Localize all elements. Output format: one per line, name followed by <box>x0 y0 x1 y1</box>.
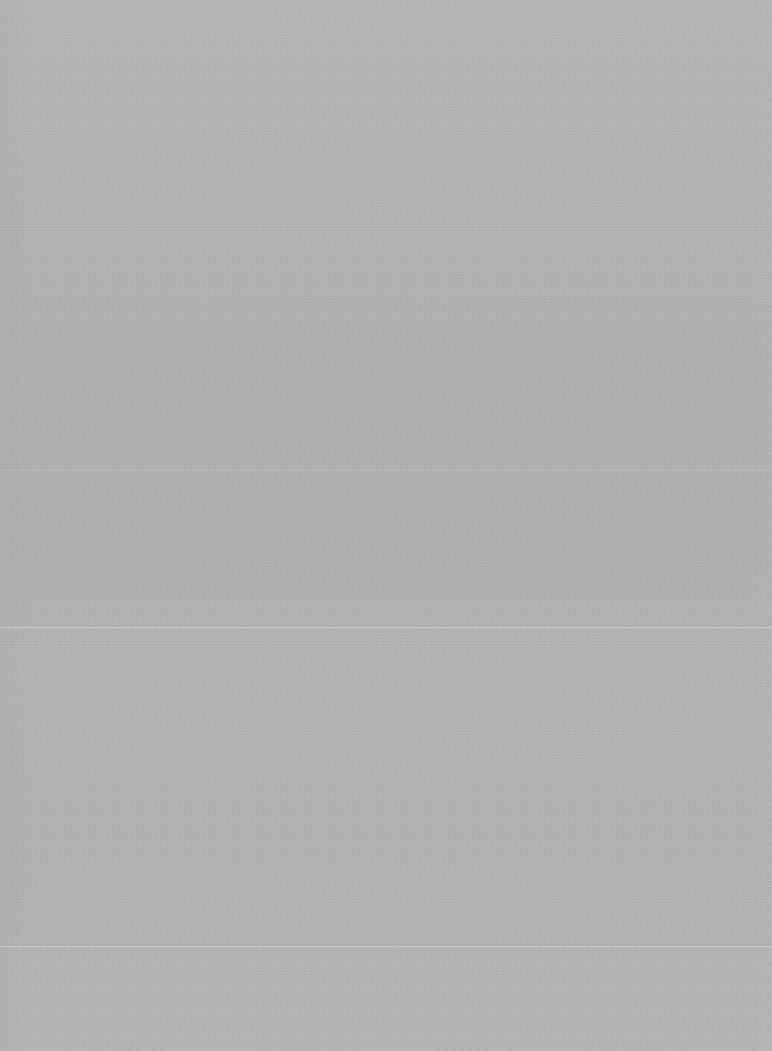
empty-content-region[interactable] <box>0 0 772 1051</box>
background-tone-gradient <box>0 0 772 1051</box>
separator-rule-1 <box>0 14 772 15</box>
background-edge-shading <box>0 0 772 1051</box>
app-surface <box>0 0 772 1051</box>
separator-rule-5 <box>0 646 772 647</box>
separator-rule-7 <box>0 946 772 947</box>
separator-rule-3 <box>0 470 772 471</box>
separator-rule-6 <box>0 856 772 857</box>
grain-texture-overlay <box>0 0 772 1051</box>
separator-rule-2 <box>0 228 772 229</box>
separator-rule-4 <box>0 627 772 628</box>
